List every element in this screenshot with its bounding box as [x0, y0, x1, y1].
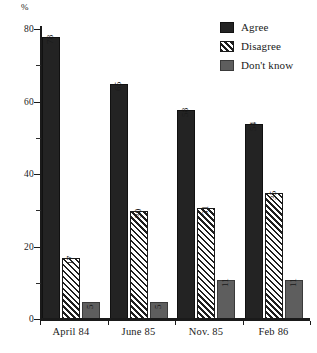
bar-value-label-disagree-2: 31 — [201, 205, 210, 214]
bar-value-label-agree-0: 78 — [46, 35, 55, 44]
legend-swatch-disagree-icon — [220, 41, 234, 52]
bar-agree-2[interactable] — [177, 110, 195, 320]
x-tick-1 — [108, 321, 109, 325]
legend-label-disagree: Disagree — [241, 40, 281, 52]
y-tick-label-60: 60 — [8, 98, 34, 108]
bar-value-label-agree-2: 58 — [181, 107, 190, 116]
x-tick-0 — [40, 321, 41, 325]
y-tick-label-0: 0 — [8, 315, 34, 325]
x-tick-end — [310, 321, 311, 325]
legend-swatch-dont-know-icon — [220, 60, 234, 71]
bar-value-label-dontknow-0: 5 — [86, 304, 95, 309]
y-axis-unit-label: % — [21, 2, 29, 12]
legend-item-dont-know[interactable]: Don't know — [220, 56, 315, 74]
bar-value-label-dontknow-3: 11 — [289, 278, 298, 287]
legend-label-dont-know: Don't know — [241, 59, 293, 71]
legend-item-disagree[interactable]: Disagree — [220, 37, 315, 55]
bar-disagree-3[interactable] — [265, 193, 283, 320]
bar-disagree-2[interactable] — [197, 208, 215, 320]
bar-disagree-0[interactable] — [62, 258, 80, 320]
x-tick-2 — [175, 321, 176, 325]
bar-value-label-agree-1: 65 — [114, 82, 123, 91]
legend-item-agree[interactable]: Agree — [220, 18, 315, 36]
x-category-label-0: April 84 — [42, 326, 100, 338]
bar-disagree-1[interactable] — [130, 211, 148, 320]
x-tick-3 — [243, 321, 244, 325]
legend: Agree Disagree Don't know — [220, 18, 315, 75]
x-category-label-1: June 85 — [110, 326, 168, 338]
x-category-label-3: Feb 86 — [245, 326, 303, 338]
bar-value-label-disagree-0: 17 — [66, 256, 75, 265]
legend-swatch-agree-icon — [220, 22, 234, 33]
x-category-label-2: Nov. 85 — [177, 326, 235, 338]
legend-label-agree: Agree — [241, 21, 268, 33]
bar-chart: % 020406080 7817565305583111543511 April… — [0, 0, 317, 353]
y-tick-label-40: 40 — [8, 170, 34, 180]
y-tick-label-80: 80 — [8, 25, 34, 35]
bar-value-label-dontknow-1: 5 — [154, 304, 163, 309]
bar-value-label-disagree-3: 35 — [269, 191, 278, 200]
bar-value-label-dontknow-2: 11 — [221, 278, 230, 287]
bar-agree-3[interactable] — [245, 124, 263, 320]
bar-value-label-disagree-1: 30 — [134, 209, 143, 218]
y-tick-label-20: 20 — [8, 243, 34, 253]
bar-agree-1[interactable] — [110, 84, 128, 320]
bar-agree-0[interactable] — [42, 37, 60, 320]
bar-value-label-agree-3: 54 — [249, 122, 258, 131]
